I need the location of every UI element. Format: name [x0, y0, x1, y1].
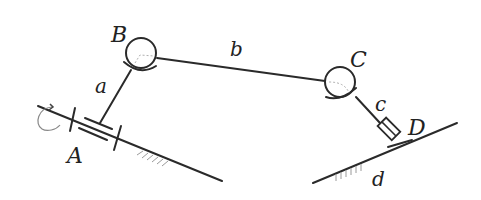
label-b: b — [230, 37, 243, 61]
label-c: c — [375, 92, 386, 116]
prismatic-pair-D — [378, 118, 401, 141]
label-a: a — [95, 74, 107, 98]
ground-A — [38, 106, 222, 181]
label-d: d — [372, 167, 385, 191]
mechanism-diagram: B a A b C c D d — [0, 0, 481, 200]
label-B: B — [110, 22, 127, 47]
label-C: C — [350, 47, 367, 72]
link-b — [157, 58, 325, 81]
label-A: A — [65, 143, 83, 168]
label-D: D — [407, 115, 426, 140]
spherical-pair-B — [124, 38, 156, 70]
